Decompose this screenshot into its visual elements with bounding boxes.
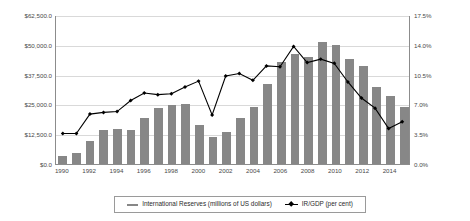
x-axis-tick: 2004	[246, 168, 260, 174]
data-point-marker	[197, 79, 201, 83]
y-axis-left: $62,500.0$50,000.0$37,500.0$25,000.0$12,…	[0, 0, 52, 221]
y-axis-right-tick: 17.5%	[414, 13, 432, 19]
y-axis-right-tick: 0.0%	[414, 162, 428, 168]
x-axis-tick: 2010	[328, 168, 342, 174]
legend-label-international-reserves: International Reserves (millions of US d…	[142, 201, 272, 207]
ir-gdp-markers	[61, 44, 404, 135]
data-point-marker	[224, 74, 228, 78]
ir-gdp-line	[63, 46, 402, 133]
legend-label-ir-gdp: IR/GDP (per cent)	[302, 201, 353, 207]
x-axis-tick: 1998	[164, 168, 178, 174]
data-point-marker	[400, 120, 404, 124]
y-axis-left-tick: $62,500.0	[24, 13, 52, 19]
bar-swatch-icon	[127, 204, 138, 206]
x-axis: 1990199219941996199820002002200420062008…	[55, 168, 410, 180]
x-axis-tick: 2014	[383, 168, 397, 174]
y-axis-left-tick: $37,500.0	[24, 73, 52, 79]
x-axis-tick: 1990	[55, 168, 69, 174]
data-point-marker	[237, 72, 241, 76]
y-axis-right-tick: 14.0%	[414, 43, 432, 49]
legend-item-international-reserves: International Reserves (millions of US d…	[127, 201, 272, 207]
plot-area	[55, 16, 410, 165]
data-point-marker	[319, 57, 323, 61]
x-axis-tick: 2000	[191, 168, 205, 174]
data-point-marker	[169, 92, 173, 96]
x-axis-tick: 1994	[110, 168, 124, 174]
y-axis-right-tick: 7.0%	[414, 102, 428, 108]
data-point-marker	[156, 93, 160, 97]
x-axis-tick: 1992	[82, 168, 96, 174]
legend-item-ir-gdp: IR/GDP (per cent)	[285, 201, 353, 207]
y-axis-left-tick: $12,500.0	[24, 132, 52, 138]
y-axis-left-tick: $0.0	[40, 162, 52, 168]
y-axis-right-tick: 10.5%	[414, 73, 432, 79]
x-axis-tick: 2008	[301, 168, 315, 174]
x-axis-tick: 2012	[355, 168, 369, 174]
y-axis-left-tick: $25,000.0	[24, 102, 52, 108]
chart-legend: International Reserves (millions of US d…	[114, 196, 366, 213]
line-series-ir-gdp	[56, 16, 409, 164]
y-axis-right-tick: 3.5%	[414, 132, 428, 138]
y-axis-left-tick: $50,000.0	[24, 43, 52, 49]
data-point-marker	[102, 110, 106, 114]
data-point-marker	[183, 85, 187, 89]
y-axis-right: 17.5%14.0%10.5%7.0%3.5%0.0%	[414, 0, 470, 221]
line-marker-swatch-icon	[285, 202, 298, 208]
data-point-marker	[210, 113, 214, 117]
x-axis-tick: 2002	[219, 168, 233, 174]
x-axis-tick: 2006	[273, 168, 287, 174]
data-point-marker	[61, 132, 65, 136]
chart-container: $62,500.0$50,000.0$37,500.0$25,000.0$12,…	[0, 0, 470, 221]
x-axis-tick: 1996	[137, 168, 151, 174]
